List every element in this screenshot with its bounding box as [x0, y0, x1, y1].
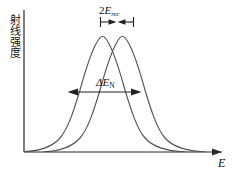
recoil-energy-label: 2Erec	[99, 4, 119, 18]
recoil-bracket-right-arrowhead	[118, 19, 126, 25]
natural-width-label: ΔEN	[96, 76, 115, 90]
natural-width-label-symbol: ΔE	[96, 76, 109, 88]
recoil-label-subscript: rec	[111, 10, 119, 18]
mossbauer-line-profile-figure: 射线强度 E 2Erec ΔEN	[0, 0, 239, 180]
recoil-bracket-left-arrowhead	[109, 19, 117, 25]
natural-width-label-subscript: N	[109, 81, 114, 90]
x-axis-label: E	[218, 156, 225, 171]
natural-width-arrow-right-head	[131, 89, 142, 96]
natural-width-arrow-left-head	[68, 89, 79, 96]
x-axis-arrow-icon	[212, 148, 222, 155]
figure-canvas	[0, 0, 239, 180]
y-axis-label: 射线强度	[2, 14, 20, 58]
absorption-curve	[44, 36, 205, 152]
emission-curve	[24, 36, 185, 152]
